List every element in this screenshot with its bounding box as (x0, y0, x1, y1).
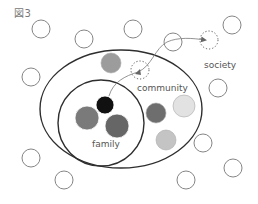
community-label: community (137, 83, 188, 93)
social-circles-diagram (0, 0, 258, 204)
society-label: society (204, 60, 236, 70)
society-member-circle (124, 20, 142, 38)
society-circles (22, 16, 242, 189)
family-member-circle (75, 106, 99, 130)
society-member-circle (22, 149, 40, 167)
community-member-circle (173, 95, 195, 117)
society-member-circle (55, 171, 73, 189)
arrowhead-icon (135, 69, 141, 75)
community-member-circle (156, 130, 176, 150)
society-member-circle (177, 171, 195, 189)
society-member-circle (32, 20, 50, 38)
society-member-circle (209, 79, 227, 97)
community-member-circle (146, 103, 166, 123)
family-member-circle (96, 96, 114, 114)
family-circle (58, 80, 144, 166)
community-member-circle (101, 53, 121, 73)
family-member-circle (105, 114, 129, 138)
family-label: family (92, 139, 120, 149)
society-member-circle (22, 68, 40, 86)
family-members (75, 96, 129, 138)
society-member-circle (223, 16, 241, 34)
society-member-circle (224, 159, 242, 177)
society-member-circle (75, 30, 93, 48)
society-member-circle (194, 134, 212, 152)
